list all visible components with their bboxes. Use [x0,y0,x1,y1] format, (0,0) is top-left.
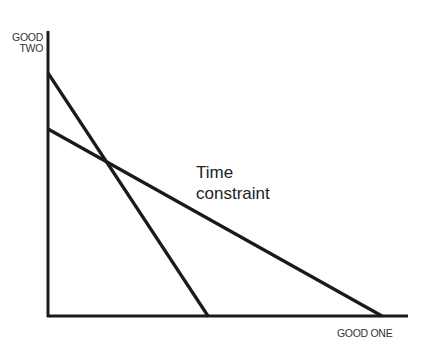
time-constraint-annotation: Time constraint [196,162,270,204]
annotation-line2: constraint [196,183,270,204]
time-constraint-line [48,129,382,316]
steep-line [48,73,208,316]
y-axis-label: GOOD TWO [2,32,43,54]
x-axis-label: GOOD ONE [337,327,392,339]
y-axis-label-line2: TWO [2,43,43,54]
annotation-line1: Time [196,162,270,183]
